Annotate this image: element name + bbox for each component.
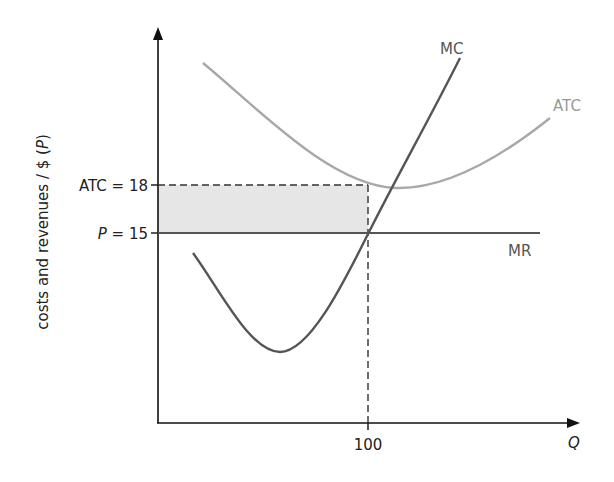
atc-label: ATC — [553, 97, 581, 115]
atc-curve — [203, 63, 550, 188]
y-axis-label: costs and revenues / $ (P) — [34, 134, 52, 330]
atc-tick-label: ATC = 18 — [79, 177, 148, 195]
cost-revenue-diagram: ATC = 18 P = 15 100 Q MC ATC MR costs an… — [0, 0, 614, 482]
mr-label: MR — [508, 242, 531, 260]
mc-label: MC — [440, 40, 463, 58]
y-axis-arrow-icon — [153, 27, 163, 40]
x-axis-arrow-icon — [567, 418, 580, 428]
p-tick-label: P = 15 — [98, 225, 148, 243]
q-tick-label: 100 — [354, 436, 383, 454]
x-axis-label: Q — [568, 434, 580, 452]
loss-area — [158, 185, 368, 233]
